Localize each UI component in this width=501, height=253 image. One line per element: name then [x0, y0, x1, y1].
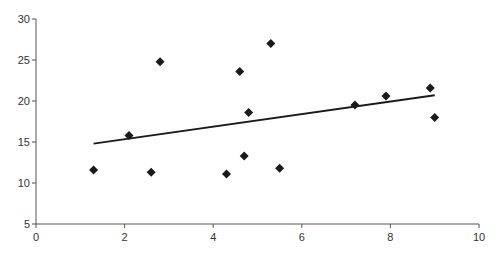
y-tick-label: 5 — [24, 218, 30, 230]
x-tick-label: 8 — [387, 231, 393, 243]
trendline — [94, 95, 435, 143]
data-point-diamond — [275, 164, 284, 173]
data-point-diamond — [156, 57, 165, 66]
y-tick-label: 20 — [18, 95, 30, 107]
data-point-diamond — [222, 169, 231, 178]
x-tick-label: 2 — [122, 231, 128, 243]
x-tick-label: 6 — [299, 231, 305, 243]
data-point-diamond — [244, 108, 253, 117]
y-tick-label: 10 — [18, 177, 30, 189]
x-tick-label: 4 — [210, 231, 216, 243]
y-tick-label: 15 — [18, 136, 30, 148]
data-points — [89, 39, 439, 178]
data-point-diamond — [235, 67, 244, 76]
data-point-diamond — [240, 151, 249, 160]
axes — [32, 19, 479, 228]
x-tick-label: 0 — [33, 231, 39, 243]
data-point-diamond — [350, 101, 359, 110]
y-tick-label: 30 — [18, 13, 30, 25]
data-point-diamond — [147, 168, 156, 177]
x-tick-label: 10 — [473, 231, 485, 243]
data-point-diamond — [381, 92, 390, 101]
data-point-diamond — [430, 113, 439, 122]
data-point-diamond — [426, 83, 435, 92]
tick-labels: 510152025300246810 — [18, 13, 485, 243]
data-point-diamond — [266, 39, 275, 48]
data-point-diamond — [89, 165, 98, 174]
scatter-chart: 510152025300246810 — [0, 0, 501, 253]
y-tick-label: 25 — [18, 54, 30, 66]
